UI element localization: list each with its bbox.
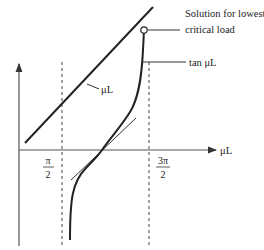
- mu-l-leader: [87, 84, 99, 89]
- annotation-line1: Solution for lowest: [185, 8, 264, 19]
- tan-curve: [70, 30, 144, 240]
- solution-point: [141, 27, 147, 33]
- annotation-line2: critical load: [185, 24, 236, 35]
- tan-label: tan μL: [189, 57, 217, 68]
- mu-l-line: [25, 7, 153, 143]
- diagram-svg: Solution for lowest critical load tan μL…: [0, 0, 264, 250]
- tick-3pi-den: 2: [161, 169, 166, 180]
- mu-l-line-label: μL: [101, 84, 113, 95]
- x-axis-label: μL: [220, 145, 232, 156]
- tick-3pi-num: 3π: [158, 155, 168, 166]
- tick-pi-num: π: [45, 155, 50, 166]
- diagram-canvas: Solution for lowest critical load tan μL…: [0, 0, 264, 250]
- tick-pi-den: 2: [46, 169, 51, 180]
